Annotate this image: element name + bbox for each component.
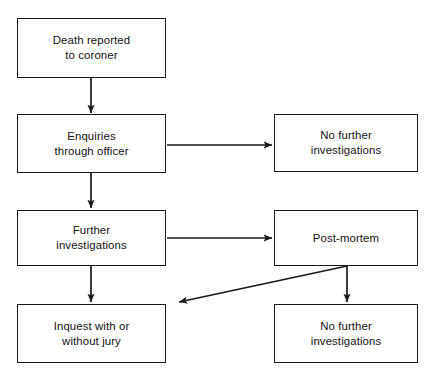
node-label: Inquest with or without jury (50, 319, 134, 348)
node-label: Post-mortem (309, 231, 383, 246)
node-no-further-investigations-1[interactable]: No further investigations (274, 114, 418, 172)
node-label: Death reported to coroner (49, 33, 134, 62)
node-death-reported[interactable]: Death reported to coroner (17, 18, 166, 78)
node-no-further-investigations-2[interactable]: No further investigations (274, 304, 418, 363)
node-inquest-with-or-without-jury[interactable]: Inquest with or without jury (17, 304, 166, 363)
node-further-investigations[interactable]: Further investigations (17, 210, 166, 266)
node-post-mortem[interactable]: Post-mortem (274, 210, 418, 266)
node-label: Enquiries through officer (50, 129, 132, 158)
node-label: Further investigations (52, 223, 130, 252)
node-label: No further investigations (307, 319, 385, 348)
node-enquiries-through-officer[interactable]: Enquiries through officer (17, 114, 166, 173)
node-label: No further investigations (307, 128, 385, 157)
edge-post-mortem-to-inquest (179, 266, 347, 302)
flowchart-canvas: Death reported to coroner Enquiries thro… (0, 0, 434, 379)
